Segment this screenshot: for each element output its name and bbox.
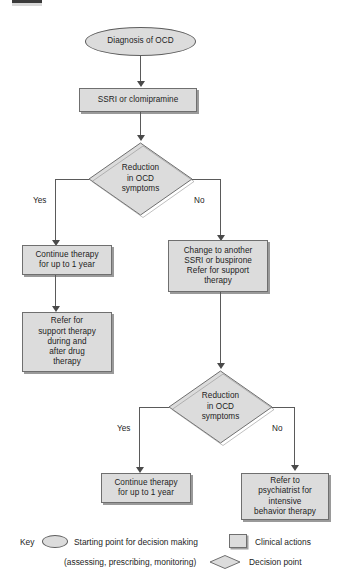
legend-key: Key Starting point for decision making (… — [0, 524, 338, 576]
connector-ssri-to-decision1 — [140, 112, 141, 136]
node-continue-therapy-1: Continue therapy for up to 1 year — [22, 245, 112, 275]
connector-change-to-decision2 — [220, 292, 221, 364]
node-refer-support-therapy: Refer for support therapy during and aft… — [22, 312, 112, 372]
arrowhead-ssri-to-decision1 — [137, 135, 145, 141]
connector-decision2-yes-vertical — [139, 407, 140, 468]
node-start-diagnosis: Diagnosis of OCD — [85, 27, 196, 56]
legend-oval-icon — [42, 535, 68, 548]
connector-decision2-no-vertical — [294, 407, 295, 466]
node-start-diagnosis-label: Diagnosis of OCD — [86, 28, 195, 55]
node-ssri-or-clomipramine-label: SSRI or clomipramine — [80, 89, 196, 111]
branch-label-decision1-yes: Yes — [33, 196, 46, 205]
legend-decision-point-label: Decision point — [249, 557, 302, 567]
connector-decision2-no-horizontal — [272, 407, 295, 408]
node-decision1-reduction: Reduction in OCD symptoms — [88, 142, 193, 216]
legend-box-icon — [229, 534, 247, 548]
node-ssri-or-clomipramine: SSRI or clomipramine — [79, 88, 197, 112]
node-continue-therapy-2: Continue therapy for up to 1 year — [101, 473, 191, 503]
connector-decision1-no-vertical — [220, 179, 221, 236]
node-refer-support-therapy-label: Refer for support therapy during and aft… — [23, 313, 111, 371]
node-change-treatment: Change to another SSRI or buspirone Refe… — [168, 240, 268, 292]
connector-decision1-yes-horizontal — [55, 179, 89, 180]
legend-start-point-label-line1: Starting point for decision making — [74, 537, 198, 547]
branch-label-decision2-yes: Yes — [117, 424, 130, 433]
arrowhead-decision2-no — [291, 465, 299, 471]
connector-decision1-yes-vertical — [55, 179, 56, 241]
node-refer-psychiatrist: Refer to psychiatrist for intensive beha… — [241, 473, 329, 520]
legend-key-label: Key — [20, 537, 34, 547]
connector-continue1-to-refer-support — [55, 275, 56, 307]
connector-decision2-yes-horizontal — [139, 407, 169, 408]
branch-label-decision1-no: No — [194, 196, 204, 205]
node-continue-therapy-1-label: Continue therapy for up to 1 year — [23, 246, 111, 274]
legend-clinical-actions-label: Clinical actions — [255, 537, 311, 547]
node-change-treatment-label: Change to another SSRI or buspirone Refe… — [169, 241, 267, 291]
connector-start-to-ssri — [140, 56, 141, 82]
node-refer-psychiatrist-label: Refer to psychiatrist for intensive beha… — [242, 474, 328, 519]
ocd-treatment-flowchart: Diagnosis of OCD SSRI or clomipramine Re… — [0, 0, 338, 576]
legend-diamond-icon — [209, 555, 241, 569]
arrowhead-start-to-ssri — [137, 81, 145, 87]
arrowhead-change-to-decision2 — [217, 363, 225, 369]
decision2-diamond-shape — [168, 370, 273, 444]
connector-decision1-no-horizontal — [192, 179, 221, 180]
legend-diamond-shape — [209, 555, 241, 569]
node-continue-therapy-2-label: Continue therapy for up to 1 year — [102, 474, 190, 502]
branch-label-decision2-no: No — [272, 424, 282, 433]
decision1-diamond-shape — [88, 142, 193, 216]
legend-start-point-label-line2: (assessing, prescribing, monitoring) — [64, 557, 196, 567]
node-decision2-reduction: Reduction in OCD symptoms — [168, 370, 273, 444]
